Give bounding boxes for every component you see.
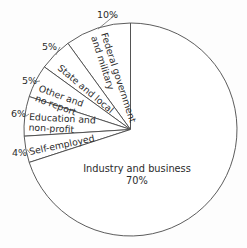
- percent-label-self-employed: 4%: [12, 147, 27, 158]
- percent-label-state-and-local: 5%: [42, 41, 57, 52]
- pie-chart-figure: 10% 5% 5% 6% 4% Federal government and m…: [0, 0, 247, 248]
- percent-label-education-and-non-profit: 6%: [11, 108, 26, 119]
- percent-label-other-and-no-report: 5%: [22, 75, 37, 86]
- slice-label-line1: Industry and business: [83, 163, 191, 174]
- pie-chart-svg: 10% 5% 5% 6% 4% Federal government and m…: [0, 0, 247, 248]
- slice-label-line2: 70%: [126, 175, 148, 186]
- percent-label-federal-government-and-military: 10%: [97, 9, 118, 20]
